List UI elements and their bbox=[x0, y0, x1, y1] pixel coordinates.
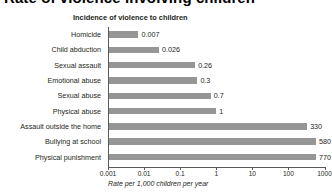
bar-value-label: 770 bbox=[319, 153, 331, 162]
bar-rows: Homicide0.007Child abduction0.026Sexual … bbox=[0, 27, 331, 165]
bar bbox=[108, 47, 159, 54]
bar-row: Physical abuse1 bbox=[0, 103, 331, 118]
bar-row: Bullying at school580 bbox=[0, 134, 331, 149]
bar-container: 330 bbox=[108, 119, 331, 134]
bar-row: Sexual abuse0.7 bbox=[0, 88, 331, 103]
bar-value-label: 0.3 bbox=[200, 76, 210, 85]
bar bbox=[108, 154, 316, 161]
bar-row: Homicide0.007 bbox=[0, 27, 331, 42]
category-label: Physical punishment bbox=[0, 153, 104, 162]
bar-container: 1 bbox=[108, 103, 331, 118]
bar-value-label: 1 bbox=[219, 107, 223, 116]
category-label: Homicide bbox=[0, 30, 104, 39]
bar bbox=[108, 123, 307, 130]
chart-plot-area: Homicide0.007Child abduction0.026Sexual … bbox=[0, 27, 331, 167]
bar bbox=[108, 31, 138, 38]
bar-container: 0.007 bbox=[108, 27, 331, 42]
x-axis-tick-label: 100 bbox=[283, 170, 294, 177]
bar-row: Assault outside the home330 bbox=[0, 119, 331, 134]
bar-row: Sexual assault0.26 bbox=[0, 58, 331, 73]
category-label: Assault outside the home bbox=[0, 122, 104, 131]
x-axis-tick-label: 0.01 bbox=[138, 170, 151, 177]
x-axis-tick-label: 1 bbox=[214, 170, 218, 177]
bar bbox=[108, 93, 211, 100]
bar bbox=[108, 77, 197, 84]
bar bbox=[108, 108, 216, 115]
bar-row: Physical punishment770 bbox=[0, 149, 331, 164]
bar-row: Child abduction0.026 bbox=[0, 42, 331, 57]
y-axis-spine bbox=[108, 27, 109, 167]
category-label: Physical abuse bbox=[0, 107, 104, 116]
x-axis-title: Rate per 1,000 children per year bbox=[108, 180, 208, 187]
bar-container: 0.026 bbox=[108, 42, 331, 57]
bar bbox=[108, 62, 195, 69]
bar-value-label: 330 bbox=[310, 122, 322, 131]
x-axis-tick-label: 10 bbox=[249, 170, 256, 177]
bar-value-label: 0.7 bbox=[214, 91, 224, 100]
bar bbox=[108, 138, 316, 145]
page-title: Rate of violence involving children bbox=[4, 0, 331, 6]
x-axis-tick-label: 0.1 bbox=[176, 170, 185, 177]
category-label: Sexual abuse bbox=[0, 91, 104, 100]
bar-container: 0.7 bbox=[108, 88, 331, 103]
chart-title: Incidence of violence to children bbox=[73, 13, 188, 22]
bar-value-label: 0.026 bbox=[162, 45, 180, 54]
category-label: Bullying at school bbox=[0, 137, 104, 146]
bar-value-label: 0.007 bbox=[141, 30, 159, 39]
bar-container: 580 bbox=[108, 134, 331, 149]
bar-row: Emotional abuse0.3 bbox=[0, 73, 331, 88]
bar-value-label: 580 bbox=[319, 137, 331, 146]
category-label: Emotional abuse bbox=[0, 76, 104, 85]
x-axis-tick-label: 0.001 bbox=[100, 170, 117, 177]
x-axis-tick-label: 1000 bbox=[317, 170, 332, 177]
bar-value-label: 0.26 bbox=[198, 61, 212, 70]
bar-container: 0.26 bbox=[108, 58, 331, 73]
category-label: Child abduction bbox=[0, 45, 104, 54]
category-label: Sexual assault bbox=[0, 61, 104, 70]
bar-container: 0.3 bbox=[108, 73, 331, 88]
bar-container: 770 bbox=[108, 149, 331, 164]
